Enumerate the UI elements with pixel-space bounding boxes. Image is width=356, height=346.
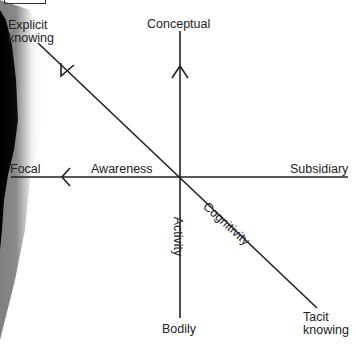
label-tacit-line2: knowing bbox=[303, 324, 349, 337]
label-tacit-knowing: Tacit knowing bbox=[303, 311, 349, 337]
label-conceptual: Conceptual bbox=[147, 18, 210, 31]
label-bodily: Bodily bbox=[162, 323, 196, 336]
arrow-up-left-icon bbox=[61, 63, 74, 76]
label-awareness: Awareness bbox=[91, 163, 153, 176]
label-subsidiary: Subsidiary bbox=[290, 163, 348, 176]
label-focal: Focal bbox=[10, 163, 41, 176]
label-explicit-line2: knowing bbox=[8, 32, 54, 45]
diagonal-axis bbox=[38, 43, 317, 308]
label-activity: Activity bbox=[171, 217, 184, 257]
label-explicit-knowing: Explicit knowing bbox=[8, 19, 54, 45]
